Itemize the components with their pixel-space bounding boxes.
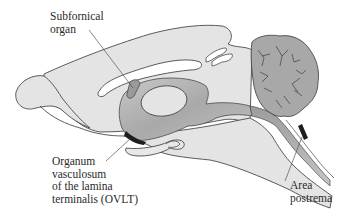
label-line: Subfornical xyxy=(50,10,104,23)
label-line: postrema xyxy=(290,192,332,205)
label-line: Area xyxy=(290,179,332,192)
label-line: Organum xyxy=(52,155,138,168)
label-line: of the lamina xyxy=(52,180,138,193)
label-line: organ xyxy=(50,23,104,36)
label-subfornical-organ: Subfornical organ xyxy=(50,10,104,35)
label-area-postrema: Area postrema xyxy=(290,179,332,204)
cerebellum xyxy=(251,35,318,116)
label-ovlt: Organum vasculosum of the lamina termina… xyxy=(52,155,138,205)
label-line: vasculosum xyxy=(52,168,138,181)
label-line: terminalis (OVLT) xyxy=(52,193,138,206)
